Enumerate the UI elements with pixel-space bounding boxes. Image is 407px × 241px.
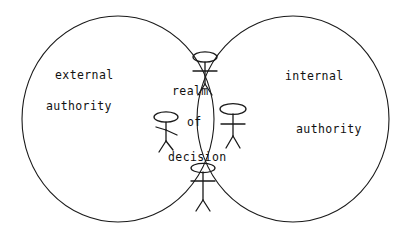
left-set-label-line1: external <box>55 70 114 82</box>
intersection-label-line2: of <box>187 117 202 129</box>
stick-figure-right[interactable] <box>220 104 246 148</box>
venn-diagram-svg <box>0 0 407 241</box>
right-set-circle[interactable] <box>197 16 389 222</box>
intersection-label-line1: realm <box>172 86 209 98</box>
diagram-canvas: external authority internal authority re… <box>0 0 407 241</box>
stick-figure-bottom[interactable] <box>191 163 215 211</box>
left-set-label-line2: authority <box>46 101 112 113</box>
left-set-circle[interactable] <box>22 16 214 222</box>
right-set-label-line1: internal <box>285 71 344 83</box>
right-set-label-line2: authority <box>296 124 362 136</box>
stick-figure-left[interactable] <box>154 112 178 152</box>
intersection-label-line3: decision <box>168 152 227 164</box>
